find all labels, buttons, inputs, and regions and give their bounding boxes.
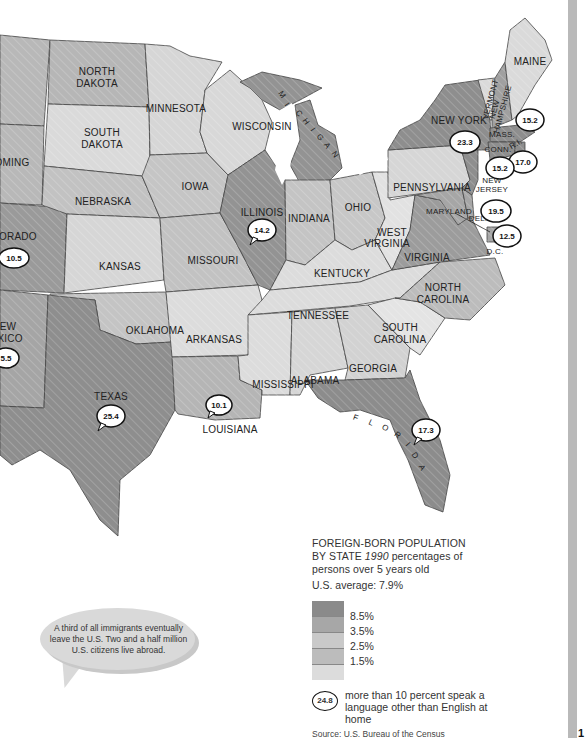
svg-text:12.5: 12.5 — [499, 232, 515, 241]
svg-text:MAINE: MAINE — [514, 56, 547, 67]
svg-text:14.2: 14.2 — [254, 226, 270, 235]
svg-text:JERSEY: JERSEY — [476, 185, 509, 194]
svg-text:XICO: XICO — [0, 333, 23, 344]
swatch-3-5-to-8-5 — [312, 617, 344, 633]
bubble-new-jersey: 19.5 — [481, 200, 511, 222]
quote-text: A third of all immigrants eventually lea… — [46, 623, 191, 656]
svg-text:TEXAS: TEXAS — [94, 391, 128, 402]
bubble-colorado: 10.5 — [0, 248, 29, 268]
svg-text:D.C.: D.C. — [487, 247, 504, 256]
svg-text:15.2: 15.2 — [492, 164, 508, 173]
svg-text:LOUISIANA: LOUISIANA — [202, 424, 257, 435]
svg-text:IOWA: IOWA — [181, 181, 208, 192]
svg-text:L: L — [367, 418, 375, 428]
svg-text:MINNESOTA: MINNESOTA — [146, 103, 207, 114]
swatch-above-8-5 — [312, 601, 344, 617]
svg-text:KANSAS: KANSAS — [99, 261, 141, 272]
bubble-new-york: 23.3 — [450, 131, 480, 153]
svg-text:25.4: 25.4 — [103, 412, 119, 421]
svg-text:KENTUCKY: KENTUCKY — [314, 268, 370, 279]
svg-text:NEBRASKA: NEBRASKA — [75, 196, 131, 207]
svg-text:DAKOTA: DAKOTA — [81, 139, 123, 150]
bubble-connecticut: 15.2 — [486, 157, 514, 179]
svg-text:LORADO: LORADO — [0, 231, 37, 242]
legend-break: 3.5% — [350, 625, 374, 637]
svg-text:MARYLAND: MARYLAND — [426, 207, 472, 216]
swatch-below-1-5 — [312, 665, 344, 680]
svg-text:CONN.: CONN. — [485, 145, 512, 154]
svg-text:19.5: 19.5 — [488, 207, 504, 216]
svg-text:MASS.: MASS. — [489, 130, 515, 139]
svg-text:17.0: 17.0 — [515, 158, 531, 167]
us-average: U.S. average: 7.9% — [312, 579, 542, 591]
swatch-1-5-to-2-5 — [312, 649, 344, 665]
bubble-massachusetts: 15.2 — [516, 109, 544, 131]
svg-text:23.3: 23.3 — [457, 138, 473, 147]
legend-break: 8.5% — [350, 610, 374, 622]
svg-text:OHIO: OHIO — [345, 202, 371, 213]
svg-text:ILLINOIS: ILLINOIS — [241, 207, 284, 218]
svg-text:OKLAHOMA: OKLAHOMA — [126, 325, 184, 336]
bubble-dc: 12.5 — [493, 225, 521, 247]
svg-text:VIRGINIA: VIRGINIA — [364, 238, 410, 249]
svg-text:NEW YORK: NEW YORK — [431, 115, 487, 126]
legend-break: 2.5% — [350, 640, 374, 652]
example-bubble: 24.8 — [312, 691, 338, 711]
map-legend: FOREIGN-BORN POPULATION BY STATE 1990 pe… — [312, 537, 542, 591]
svg-text:ALABAMA: ALABAMA — [291, 375, 340, 386]
svg-text:NORTH: NORTH — [79, 66, 115, 77]
bubble-new-mexico: 5.5 — [0, 348, 19, 368]
svg-text:MISSOURI: MISSOURI — [187, 255, 238, 266]
svg-text:GEORGIA: GEORGIA — [349, 363, 397, 374]
svg-text:ARKANSAS: ARKANSAS — [186, 334, 242, 345]
state-montana — [0, 35, 50, 126]
svg-text:F: F — [352, 413, 360, 423]
svg-text:CAROLINA: CAROLINA — [417, 294, 470, 305]
svg-text:INDIANA: INDIANA — [288, 213, 330, 224]
svg-text:DAKOTA: DAKOTA — [76, 78, 118, 89]
legend-title: FOREIGN-BORN POPULATION BY STATE 1990 pe… — [312, 537, 542, 576]
svg-text:NORTH: NORTH — [425, 282, 461, 293]
svg-text:OMING: OMING — [0, 157, 29, 168]
lake-michigan — [275, 103, 295, 185]
svg-text:5.5: 5.5 — [0, 354, 12, 363]
svg-text:10.5: 10.5 — [6, 254, 22, 263]
svg-text:CAROLINA: CAROLINA — [374, 334, 427, 345]
svg-text:WISCONSIN: WISCONSIN — [232, 121, 292, 132]
svg-text:O: O — [380, 422, 390, 433]
svg-text:EW: EW — [0, 321, 17, 332]
svg-text:10.1: 10.1 — [211, 401, 227, 410]
svg-text:PENNSYLVANIA: PENNSYLVANIA — [393, 182, 471, 193]
svg-text:VIRGINIA: VIRGINIA — [404, 252, 450, 263]
lake-erie — [345, 150, 388, 175]
svg-text:15.2: 15.2 — [522, 116, 538, 125]
page-number: 1 — [578, 727, 584, 739]
svg-text:SOUTH: SOUTH — [84, 127, 120, 138]
page-edge-bar — [568, 0, 577, 738]
swatch-2-5-to-3-5 — [312, 633, 344, 649]
svg-text:TENNESSEE: TENNESSEE — [287, 310, 350, 321]
svg-text:17.3: 17.3 — [418, 426, 434, 435]
state-maine — [505, 18, 552, 120]
source-credit: Source: U.S. Bureau of the Census — [312, 729, 445, 739]
legend-break: 1.5% — [350, 655, 374, 667]
language-note-text: more than 10 percent speak a language ot… — [345, 689, 495, 725]
svg-text:SOUTH: SOUTH — [382, 322, 418, 333]
state-kansas — [64, 214, 164, 293]
svg-text:WEST: WEST — [377, 227, 407, 238]
legend-swatches: 8.5% 3.5% 2.5% 1.5% — [312, 601, 344, 680]
